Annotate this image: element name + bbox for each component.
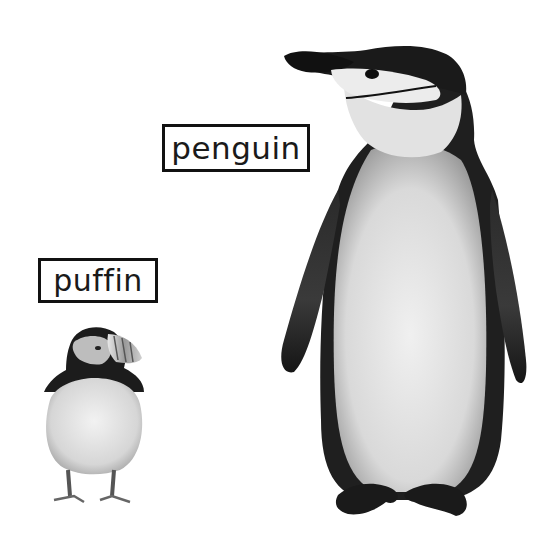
puffin-label-text: puffin [53, 263, 143, 298]
puffin-image [40, 320, 146, 506]
penguin-image [276, 40, 528, 522]
puffin-label: puffin [38, 258, 158, 303]
